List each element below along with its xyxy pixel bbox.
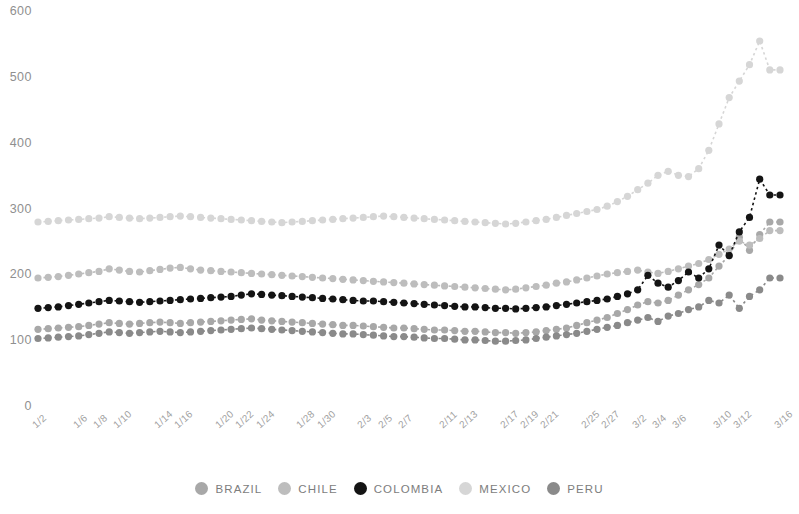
data-point [156,319,163,326]
data-point [34,326,41,333]
data-point [55,324,62,331]
data-point [726,292,733,299]
data-point [167,213,174,220]
series-colombia [34,176,783,313]
data-point [289,293,296,300]
data-point [431,335,438,342]
data-point [705,147,712,154]
data-point [665,284,672,291]
data-point [106,213,113,220]
data-point [604,203,611,210]
data-point [106,328,113,335]
data-point [492,329,499,336]
data-point [339,215,346,222]
data-point [766,218,773,225]
data-point [390,324,397,331]
data-point [593,297,600,304]
data-point [563,301,570,308]
data-point [400,324,407,331]
data-point [502,220,509,227]
data-point [411,215,418,222]
data-point [278,219,285,226]
data-point [238,269,245,276]
data-point [95,330,102,337]
data-point [207,215,214,222]
data-point [583,319,590,326]
data-point [461,303,468,310]
data-point [451,303,458,310]
data-point [715,251,722,258]
data-point [400,299,407,306]
data-point [390,213,397,220]
data-point [634,267,641,274]
data-point [604,270,611,277]
data-point [258,218,265,225]
data-point [197,295,204,302]
data-point [116,267,123,274]
data-point [329,275,336,282]
data-point [75,332,82,339]
line-chart: 0100200300400500600 1/21/61/81/101/141/1… [0,0,799,514]
data-point [563,324,570,331]
data-point [319,321,326,328]
legend-item-chile[interactable]: CHILE [278,482,337,495]
data-point [197,214,204,221]
data-point [746,214,753,221]
legend-item-mexico[interactable]: MEXICO [459,482,531,495]
data-point [370,297,377,304]
legend-item-brazil[interactable]: BRAZIL [195,482,262,495]
series-line [38,231,780,290]
data-point [339,296,346,303]
data-point [553,280,560,287]
x-axis-tick: 2/3 [355,412,373,430]
data-point [461,328,468,335]
data-point [705,265,712,272]
data-point [512,337,519,344]
data-point [55,303,62,310]
data-point [492,305,499,312]
data-point [726,252,733,259]
data-point [563,331,570,338]
data-point [533,283,540,290]
data-point [665,268,672,275]
data-point [604,314,611,321]
x-axis-tick: 3/6 [670,412,688,430]
data-point [441,302,448,309]
data-point [553,214,560,221]
data-point [482,285,489,292]
data-point [482,304,489,311]
data-point [289,218,296,225]
data-point [644,180,651,187]
data-point [411,280,418,287]
data-point [126,321,133,328]
data-point [543,327,550,334]
data-point [482,328,489,335]
data-point [766,227,773,234]
legend-label: MEXICO [479,483,531,495]
data-point [776,227,783,234]
x-axis-tick: 3/2 [630,412,648,430]
legend-item-peru[interactable]: PERU [547,482,603,495]
data-point [45,218,52,225]
data-point [187,295,194,302]
data-point [451,327,458,334]
data-point [472,284,479,291]
data-point [370,278,377,285]
x-axis-tick: 2/5 [376,412,394,430]
data-point [472,218,479,225]
data-point [339,276,346,283]
data-point [411,334,418,341]
data-point [451,217,458,224]
data-point [268,271,275,278]
data-point [85,215,92,222]
data-point [685,286,692,293]
data-point [278,292,285,299]
data-point [715,242,722,249]
legend-swatch-icon [354,482,367,495]
data-point [34,274,41,281]
data-point [248,324,255,331]
legend-item-colombia[interactable]: COLOMBIA [354,482,444,495]
legend-label: CHILE [298,483,337,495]
data-point [502,338,509,345]
legend-swatch-icon [195,482,208,495]
